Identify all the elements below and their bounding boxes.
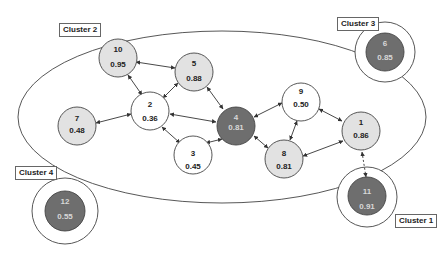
edge-7-2: [96, 114, 131, 123]
node-1-value: 0.86: [353, 131, 369, 140]
edge-10-2: [128, 75, 142, 95]
node-2-value: 0.36: [142, 114, 158, 123]
edge-2-4: [170, 114, 216, 122]
node-8[interactable]: 8 0.81: [265, 140, 303, 178]
node-2[interactable]: 2 0.36: [131, 92, 169, 130]
node-3[interactable]: 3 0.45: [174, 136, 212, 174]
cluster-3-label: Cluster 3: [337, 17, 379, 31]
node-4-value: 0.81: [228, 123, 244, 132]
node-6-label: 6: [383, 39, 388, 48]
node-5-value: 0.88: [186, 74, 202, 83]
node-3-value: 0.45: [185, 162, 201, 171]
node-9[interactable]: 9 0.50: [282, 83, 320, 121]
node-5[interactable]: 5 0.88: [175, 53, 213, 91]
cluster-4-label: Cluster 4: [15, 166, 57, 180]
edge-9-1: [319, 109, 342, 121]
node-6-value: 0.85: [377, 53, 393, 62]
node-10-value: 0.95: [110, 60, 126, 69]
cluster-diagram: 10 0.95 5 0.88 2 0.36 7 0.48 4 0.81 3 0.…: [0, 0, 447, 256]
node-11[interactable]: 11 0.91: [348, 177, 386, 215]
node-7[interactable]: 7 0.48: [58, 107, 96, 145]
edge-10-5: [136, 62, 175, 68]
edge-3-4: [206, 139, 222, 143]
node-8-value: 0.81: [276, 162, 292, 171]
edge-2-3: [162, 127, 180, 143]
edge-8-1: [303, 141, 343, 156]
node-2-label: 2: [148, 100, 153, 109]
node-7-value: 0.48: [69, 126, 85, 135]
node-10-label: 10: [114, 45, 123, 54]
node-9-label: 9: [299, 87, 304, 96]
cluster-1-label: Cluster 1: [395, 214, 437, 228]
node-9-value: 0.50: [293, 100, 309, 109]
node-12-label: 12: [61, 197, 70, 206]
node-12-value: 0.55: [57, 212, 73, 221]
node-4-label: 4: [234, 113, 239, 122]
edge-4-8: [254, 136, 268, 148]
node-5-label: 5: [192, 59, 197, 68]
cluster-2-label: Cluster 2: [59, 23, 101, 37]
node-11-label: 11: [363, 187, 372, 196]
node-8-label: 8: [282, 149, 287, 158]
node-12[interactable]: 12 0.55: [45, 191, 85, 231]
node-11-value: 0.91: [359, 202, 375, 211]
node-6[interactable]: 6 0.85: [366, 33, 404, 71]
node-4[interactable]: 4 0.81: [217, 107, 255, 145]
edge-5-4: [207, 87, 223, 109]
edge-4-9: [254, 103, 282, 117]
node-3-label: 3: [191, 149, 196, 158]
node-10[interactable]: 10 0.95: [99, 39, 137, 77]
edge-9-8: [290, 121, 297, 140]
node-7-label: 7: [75, 114, 80, 123]
node-1[interactable]: 1 0.86: [342, 112, 380, 150]
edge-5-2: [163, 83, 178, 98]
node-1-label: 1: [359, 118, 364, 127]
